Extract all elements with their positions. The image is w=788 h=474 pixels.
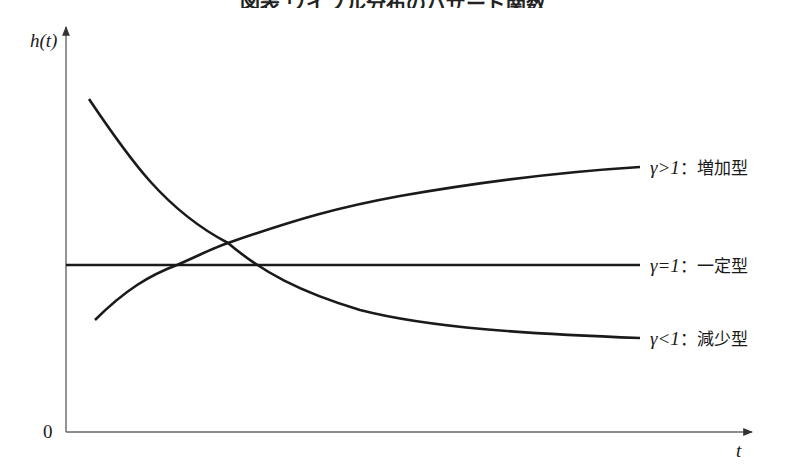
legend-increasing: γ>1：増加型 [650,154,748,179]
legend-decreasing: γ<1：減少型 [650,325,748,350]
hazard-chart [0,0,788,474]
origin-label: 0 [43,421,53,443]
legend-constant-sep: ： [680,256,697,276]
legend-decreasing-gamma: γ<1 [650,328,680,349]
series-increasing-line [95,167,640,320]
legend-constant-gamma: γ=1 [650,255,680,276]
legend-decreasing-text: 減少型 [697,329,748,349]
legend-increasing-gamma: γ>1 [650,157,680,178]
series-decreasing-line [89,99,640,338]
legend-increasing-sep: ： [680,158,697,178]
legend-constant-text: 一定型 [697,256,748,276]
legend-constant: γ=1：一定型 [650,252,748,277]
legend-decreasing-sep: ： [680,329,697,349]
x-axis-label: t [736,440,741,462]
legend-increasing-text: 増加型 [697,158,748,178]
y-axis-label: h(t) [30,30,57,52]
